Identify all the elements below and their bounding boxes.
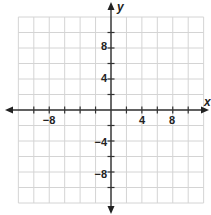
x-tick-label-8: 8: [169, 114, 175, 126]
x-axis-label: x: [203, 95, 211, 109]
y-axis-down-arrow-icon: [108, 206, 115, 214]
x-tick-label-4: 4: [139, 114, 146, 126]
y-tick-label-4: 4: [101, 72, 108, 84]
x-axis-left-arrow-icon: [5, 107, 13, 114]
y-tick-label-neg4: −4: [94, 136, 107, 148]
y-tick-label-neg8: −8: [94, 168, 107, 180]
y-axis-label: y: [116, 0, 125, 14]
x-tick-label-neg8: −8: [43, 114, 56, 126]
coordinate-plane: y x −8 4 8 8 4 −4 −8: [0, 0, 211, 215]
y-tick-label-8: 8: [101, 40, 107, 52]
y-axis-up-arrow-icon: [108, 2, 115, 10]
